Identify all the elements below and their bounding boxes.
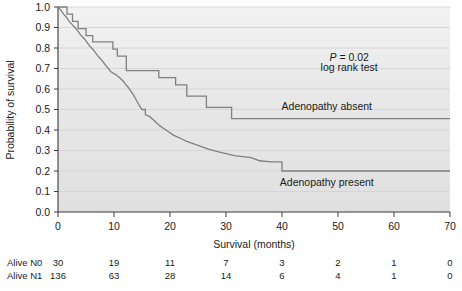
y-tick-label: 0.7: [35, 62, 50, 74]
x-axis-label: Survival (months): [213, 238, 295, 250]
risk-cell: 136: [45, 269, 71, 282]
x-tick-label: 0: [55, 220, 61, 232]
y-tick-label: 0.8: [35, 42, 50, 54]
annotation-test-name: log rank test: [321, 61, 378, 73]
risk-cell: 1: [381, 269, 407, 282]
risk-cell: 11: [157, 256, 183, 269]
risk-row-label: Alive N0: [7, 256, 42, 269]
annotation-series-label-present: Adenopathy present: [280, 176, 374, 188]
y-tick-label: 0.6: [35, 83, 50, 95]
risk-cell: 6: [269, 269, 295, 282]
risk-cell: 0: [437, 269, 462, 282]
y-tick-label: 0.9: [35, 21, 50, 33]
x-tick-label: 10: [108, 220, 120, 232]
risk-cell: 2: [325, 256, 351, 269]
risk-cell: 30: [45, 256, 71, 269]
x-tick-label: 60: [388, 220, 400, 232]
risk-cell: 3: [269, 256, 295, 269]
y-tick-label: 0.3: [35, 144, 50, 156]
x-tick-label: 30: [220, 220, 232, 232]
x-tick-label: 40: [276, 220, 288, 232]
y-tick-label: 0.5: [35, 103, 50, 115]
risk-cell: 28: [157, 269, 183, 282]
risk-row-label: Alive N1: [7, 269, 42, 282]
risk-table-row: Alive N030191173210: [0, 256, 462, 269]
x-axis-ticks: 010203040506070: [55, 212, 456, 232]
risk-cell: 19: [101, 256, 127, 269]
x-tick-label: 20: [164, 220, 176, 232]
y-tick-label: 0.1: [35, 185, 50, 197]
y-tick-label: 1.0: [35, 1, 50, 13]
x-tick-label: 70: [444, 220, 456, 232]
x-tick-label: 50: [332, 220, 344, 232]
kaplan-meier-plot: 0.00.10.20.30.40.50.60.70.80.91.0 010203…: [0, 0, 462, 291]
risk-table-row: Alive N11366328146410: [0, 269, 462, 282]
risk-cell: 63: [101, 269, 127, 282]
y-tick-label: 0.2: [35, 165, 50, 177]
y-axis-label: Probability of survival: [4, 60, 16, 159]
y-axis-ticks: 0.00.10.20.30.40.50.60.70.80.91.0: [35, 1, 58, 218]
y-tick-label: 0.0: [35, 206, 50, 218]
annotation-series-label-absent: Adenopathy absent: [282, 100, 373, 112]
risk-cell: 4: [325, 269, 351, 282]
risk-cell: 0: [437, 256, 462, 269]
risk-cell: 14: [213, 269, 239, 282]
numbers-at-risk-table: Alive N030191173210Alive N11366328146410: [0, 256, 462, 282]
risk-cell: 1: [381, 256, 407, 269]
survival-chart-figure: 0.00.10.20.30.40.50.60.70.80.91.0 010203…: [0, 0, 462, 291]
y-tick-label: 0.4: [35, 124, 50, 136]
risk-cell: 7: [213, 256, 239, 269]
